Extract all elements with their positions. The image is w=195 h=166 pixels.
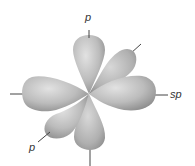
label-right-sp: sp (170, 89, 182, 100)
label-top-p: p (85, 12, 91, 23)
label-bottom-left-p: p (29, 142, 35, 153)
bottom-left-p-leader-line (38, 132, 50, 142)
